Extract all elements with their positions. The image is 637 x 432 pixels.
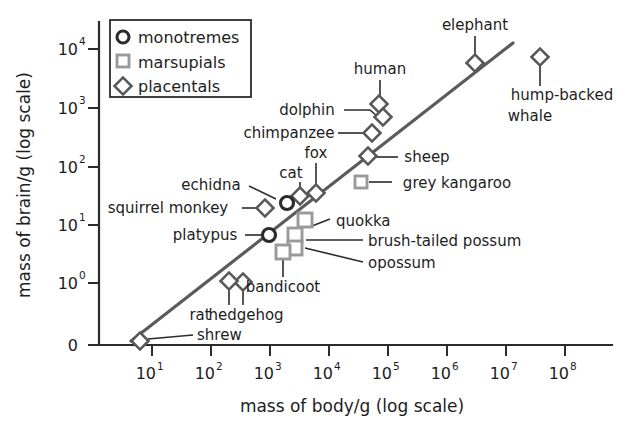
leader-line-opossum [305,248,363,262]
x-tick-label: 10 [431,364,451,383]
point-label-humpback-whale-line1: hump-backed [511,86,613,104]
y-tick-exponent: 2 [79,153,86,165]
x-axis-title: mass of body/g (log scale) [240,396,464,416]
point-label-rat: rat [189,306,210,324]
point-label-fox: fox [305,144,328,162]
point-label-elephant: elephant [442,16,508,34]
data-marker-squirrel-monkey[interactable] [257,200,274,217]
point-label-grey-kangaroo: grey kangaroo [403,174,511,192]
x-tick-label: 10 [254,364,274,383]
point-label-echidna: echidna [181,176,240,194]
leader-line-echidna [249,186,276,199]
data-marker-grey-kangaroo[interactable] [355,176,367,188]
point-label-sheep: sheep [404,148,449,166]
y-axis-title: mass of brain/g (log scale) [14,72,34,298]
y-tick-exponent: 4 [79,35,86,47]
brain-body-mass-scatter-figure: 10 4 10 3 10 2 10 1 10 0 0 10 1 1 [0,0,637,432]
legend-label-monotremes: monotremes [138,28,239,47]
point-label-squirrel-monkey: squirrel monkey [108,199,229,217]
y-tick-exponent: 3 [79,94,86,106]
leader-line-shrew [148,335,193,339]
x-tick-label: 10 [136,364,156,383]
x-tick-exponent: 1 [157,360,164,372]
x-tick-exponent: 5 [393,360,400,372]
y-tick-labels: 10 4 10 3 10 2 10 1 10 0 0 [58,35,86,355]
y-tick-label: 0 [68,336,78,355]
data-marker-quokka[interactable] [298,213,312,227]
data-marker-bandicoot[interactable] [276,245,290,259]
x-tick-label: 10 [490,364,510,383]
data-marker-fox[interactable] [308,185,325,202]
x-tick-group [152,345,565,356]
x-tick-label: 10 [195,364,215,383]
x-tick-exponent: 6 [452,360,459,372]
point-label-dolphin: dolphin [279,101,335,119]
point-label-opossum: opossum [368,254,436,272]
data-marker-rat[interactable] [221,273,238,290]
x-tick-exponent: 2 [216,360,223,372]
x-tick-labels: 10 1 10 2 10 3 10 4 10 5 10 6 10 7 10 8 [136,360,577,383]
point-label-hedgehog: hedgehog [208,306,283,324]
data-marker-platypus[interactable] [263,229,276,242]
x-tick-exponent: 7 [511,360,518,372]
point-label-human: human [354,60,406,78]
x-tick-label: 10 [372,364,392,383]
x-tick-exponent: 4 [334,360,341,372]
legend-label-marsupials: marsupials [138,53,226,72]
data-marker-chimpanzee[interactable] [364,125,381,142]
x-tick-label: 10 [549,364,569,383]
x-tick-exponent: 8 [570,360,577,372]
chart-canvas: 10 4 10 3 10 2 10 1 10 0 0 10 1 1 [0,0,637,432]
y-tick-label: 10 [58,99,78,118]
point-label-quokka: quokka [336,212,391,230]
legend: monotremes marsupials placentals [110,20,251,97]
point-label-brush-tailed-possum: brush-tailed possum [368,232,521,250]
legend-marker-marsupials [117,55,129,67]
y-tick-label: 10 [58,274,78,293]
point-label-chimpanzee: chimpanzee [243,124,334,142]
leader-line-quokka [312,219,330,226]
data-marker-shrew[interactable] [132,333,149,350]
point-label-cat: cat [279,164,302,182]
y-tick-label: 10 [58,158,78,177]
data-marker-humpback-whale[interactable] [532,49,549,66]
y-tick-label: 10 [58,40,78,59]
y-tick-exponent: 1 [79,211,86,223]
legend-label-placentals: placentals [138,77,220,96]
point-label-shrew: shrew [197,326,242,344]
y-tick-group [88,49,99,345]
leader-line-dolphin [344,110,377,116]
data-marker-echidna[interactable] [281,197,294,210]
y-tick-label: 10 [58,216,78,235]
point-label-humpback-whale-line2: whale [508,107,552,125]
legend-marker-monotremes [117,31,129,43]
y-tick-exponent: 0 [79,269,86,281]
point-label-platypus: platypus [173,226,238,244]
point-label-bandicoot: bandicoot [246,278,321,296]
x-tick-exponent: 3 [275,360,282,372]
x-tick-label: 10 [313,364,333,383]
